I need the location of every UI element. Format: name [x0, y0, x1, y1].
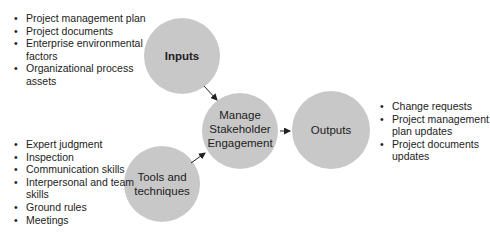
tools-list-item: Expert judgment — [26, 138, 136, 151]
tools-list-item: Interpersonal and team skills — [26, 176, 136, 201]
tools-list-item: Meetings — [26, 214, 136, 227]
process-label-line-3: Engagement — [207, 137, 273, 149]
process-label-line-2: Stakeholder — [209, 123, 271, 135]
inputs-list-item: Project documents — [26, 25, 156, 38]
outputs-list-item: Project documents updates — [392, 138, 490, 163]
tools-label-line-2: techniques — [134, 185, 190, 197]
tools-list-item: Communication skills — [26, 163, 136, 176]
tools-list: Expert judgment Inspection Communication… — [12, 138, 136, 226]
inputs-list-item: Organizational process assets — [26, 62, 156, 87]
outputs-list: Change requests Project management plan … — [378, 100, 490, 163]
process-node: Manage Stakeholder Engagement — [202, 93, 278, 169]
process-label-line-1: Manage — [219, 109, 261, 121]
outputs-node: Outputs — [292, 91, 370, 169]
outputs-list-item: Change requests — [392, 100, 490, 113]
inputs-label: Inputs — [165, 50, 200, 62]
inputs-list-item: Enterprise environmental factors — [26, 37, 156, 62]
outputs-label: Outputs — [311, 124, 352, 136]
arrow-inputs-to-process — [204, 86, 217, 100]
arrow-tools-to-process — [191, 153, 205, 163]
inputs-list-item: Project management plan — [26, 12, 156, 25]
tools-list-item: Inspection — [26, 151, 136, 164]
outputs-list-item: Project management plan updates — [392, 113, 490, 138]
tools-list-item: Ground rules — [26, 201, 136, 214]
tools-label-line-1: Tools and — [137, 171, 186, 183]
inputs-list: Project management plan Project document… — [12, 12, 156, 88]
